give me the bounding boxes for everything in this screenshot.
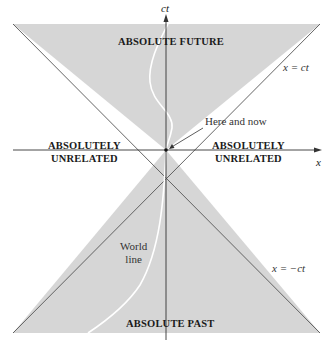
origin-dot: [164, 148, 168, 152]
ct-axis-arrow-icon: [164, 14, 169, 22]
ct-axis-label: ct: [161, 2, 169, 14]
absolute-future-label: ABSOLUTE FUTURE: [118, 35, 224, 48]
here-and-now-label: Here and now: [205, 115, 267, 127]
absolute-past-label: ABSOLUTE PAST: [126, 317, 214, 330]
x-axis-arrow-icon: [314, 148, 322, 153]
world-line-label-2: line: [120, 253, 147, 266]
left-unrelated-label: ABSOLUTELY UNRELATED: [48, 139, 121, 165]
world-line-label: World line: [120, 240, 147, 266]
x-eq-ct-label: x = ct: [283, 61, 309, 73]
right-unrelated-label: ABSOLUTELY UNRELATED: [212, 139, 285, 165]
right-unrelated-line1: ABSOLUTELY: [212, 139, 285, 152]
x-eq-minus-ct-label: x = −ct: [272, 262, 305, 274]
x-axis-label: x: [316, 156, 321, 168]
left-unrelated-line1: ABSOLUTELY: [48, 139, 121, 152]
left-unrelated-line2: UNRELATED: [48, 152, 121, 165]
right-unrelated-line2: UNRELATED: [212, 152, 285, 165]
past-cone: [13, 150, 320, 333]
world-line-label-1: World: [120, 240, 147, 253]
light-cone-diagram: [0, 0, 334, 347]
